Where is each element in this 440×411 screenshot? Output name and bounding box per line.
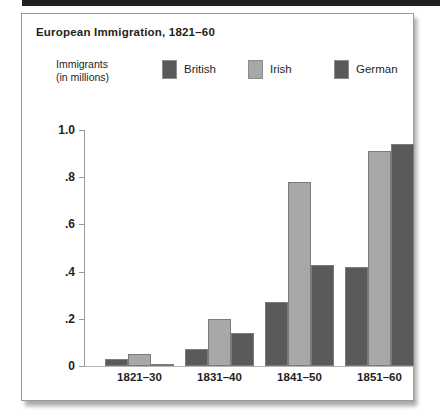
bar-group: 1831–40 (185, 130, 254, 366)
bar-british-1841–50 (265, 302, 288, 366)
bar-british-1821–30 (105, 359, 128, 366)
chart-card: European Immigration, 1821–60 British Ir… (21, 13, 414, 401)
x-category-label: 1831–40 (185, 371, 254, 383)
bar-german-1851–60 (391, 144, 414, 366)
bar-group: 1841–50 (265, 130, 334, 366)
y-tick-mark (79, 177, 85, 178)
bar-irish-1851–60 (368, 151, 391, 366)
legend-swatch-british (162, 60, 177, 79)
plot-area: 1.0.8.6.4.20 1821–301831–401841–501851–6… (84, 130, 414, 367)
bar-british-1831–40 (185, 349, 208, 366)
x-category-label: 1851–60 (345, 371, 414, 383)
bar-irish-1821–30 (128, 354, 151, 366)
y-axis-caption: Immigrants (in millions) (56, 58, 109, 84)
y-tick-label: .6 (65, 217, 75, 231)
bar-british-1851–60 (345, 267, 368, 366)
y-tick-mark (79, 366, 85, 367)
legend-item-british: British (162, 58, 216, 80)
legend-label-british: British (184, 63, 216, 75)
y-axis-caption-line1: Immigrants (56, 58, 109, 71)
y-tick-label: .4 (65, 265, 75, 279)
bar-german-1831–40 (231, 333, 254, 366)
bar-german-1821–30 (151, 364, 174, 366)
legend-item-irish: Irish (248, 58, 292, 80)
bar-group: 1821–30 (105, 130, 174, 366)
y-tick-label: .8 (65, 170, 75, 184)
y-tick-mark (79, 272, 85, 273)
bar-irish-1841–50 (288, 182, 311, 366)
y-tick-mark (79, 130, 85, 131)
top-rule (22, 0, 440, 6)
y-tick-label: 1.0 (58, 123, 75, 137)
y-axis-line (84, 130, 85, 367)
y-tick-mark (79, 319, 85, 320)
legend-label-german: German (356, 63, 398, 75)
bar-german-1841–50 (311, 265, 334, 366)
chart-title: European Immigration, 1821–60 (36, 26, 215, 38)
y-axis-caption-line2: (in millions) (56, 71, 109, 84)
chart-legend: British Irish German (162, 58, 407, 80)
legend-label-irish: Irish (270, 63, 292, 75)
legend-swatch-german (334, 60, 349, 79)
legend-swatch-irish (248, 60, 263, 79)
y-tick-label: .2 (65, 312, 75, 326)
legend-item-german: German (334, 58, 398, 80)
bar-irish-1831–40 (208, 319, 231, 366)
bar-group: 1851–60 (345, 130, 414, 366)
x-category-label: 1841–50 (265, 371, 334, 383)
y-tick-label: 0 (68, 359, 75, 373)
x-category-label: 1821–30 (105, 371, 174, 383)
x-axis-baseline (84, 366, 414, 367)
y-tick-mark (79, 224, 85, 225)
